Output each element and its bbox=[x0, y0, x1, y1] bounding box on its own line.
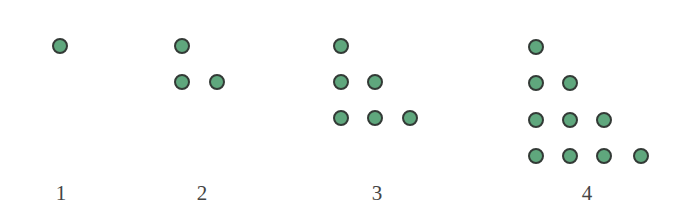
dot bbox=[367, 110, 383, 126]
dot bbox=[52, 38, 68, 54]
dot bbox=[633, 148, 649, 164]
dot bbox=[596, 112, 612, 128]
dot bbox=[528, 39, 544, 55]
dot bbox=[528, 75, 544, 91]
dot bbox=[174, 38, 190, 54]
dot bbox=[333, 74, 349, 90]
dot bbox=[333, 110, 349, 126]
dot bbox=[596, 148, 612, 164]
dot bbox=[528, 112, 544, 128]
dot bbox=[209, 74, 225, 90]
pattern-label-1: 1 bbox=[56, 183, 67, 204]
dot bbox=[562, 75, 578, 91]
dot bbox=[528, 148, 544, 164]
dot bbox=[333, 38, 349, 54]
pattern-label-4: 4 bbox=[582, 183, 593, 204]
pattern-label-3: 3 bbox=[372, 183, 383, 204]
dot bbox=[367, 74, 383, 90]
pattern-label-2: 2 bbox=[197, 183, 208, 204]
dot bbox=[174, 74, 190, 90]
triangular-numbers-diagram: 1 2 3 4 bbox=[0, 0, 676, 213]
dot bbox=[562, 148, 578, 164]
dot bbox=[402, 110, 418, 126]
dot bbox=[562, 112, 578, 128]
